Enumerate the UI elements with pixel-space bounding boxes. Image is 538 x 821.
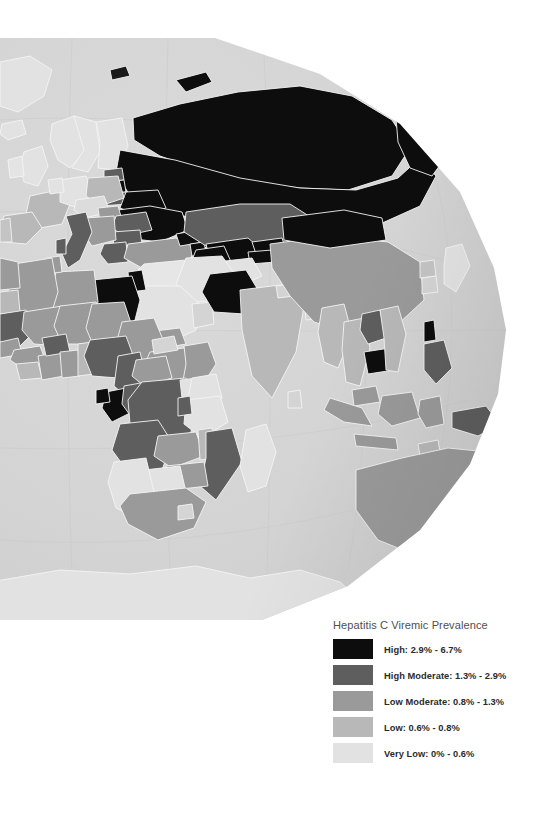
- country-tasmania: [446, 562, 466, 580]
- legend-label-low-moderate: Low Moderate: 0.8% - 1.3%: [384, 696, 504, 707]
- country-new-zealand: [512, 516, 530, 544]
- legend-swatch-high: [333, 639, 373, 659]
- legend-item-high-moderate: High Moderate: 1.3% - 2.9%: [333, 665, 533, 685]
- globe-content: [0, 0, 538, 660]
- country-russia-kamchatka: [446, 140, 462, 172]
- legend-item-low: Low: 0.6% - 0.8%: [333, 717, 533, 737]
- globe-svg: [0, 0, 538, 660]
- legend-item-very-low: Very Low: 0% - 0.6%: [333, 743, 533, 763]
- legend-item-low-moderate: Low Moderate: 0.8% - 1.3%: [333, 691, 533, 711]
- globe-limb-shading: [0, 0, 538, 660]
- legend-swatch-very-low: [333, 743, 373, 763]
- globe-map: [0, 0, 538, 660]
- legend-label-high: High: 2.9% - 6.7%: [384, 644, 462, 655]
- legend-swatch-low-moderate: [333, 691, 373, 711]
- legend-item-high: High: 2.9% - 6.7%: [333, 639, 533, 659]
- legend-title: Hepatitis C Viremic Prevalence: [333, 618, 525, 632]
- legend-swatch-low: [333, 717, 373, 737]
- legend-swatch-high-moderate: [333, 665, 373, 685]
- map-legend: Hepatitis C Viremic Prevalence High: 2.9…: [333, 618, 533, 769]
- legend-label-high-moderate: High Moderate: 1.3% - 2.9%: [384, 670, 506, 681]
- legend-label-low: Low: 0.6% - 0.8%: [384, 722, 460, 733]
- legend-label-very-low: Very Low: 0% - 0.6%: [384, 748, 474, 759]
- hepatitis-c-prevalence-map-figure: Hepatitis C Viremic Prevalence High: 2.9…: [0, 0, 538, 821]
